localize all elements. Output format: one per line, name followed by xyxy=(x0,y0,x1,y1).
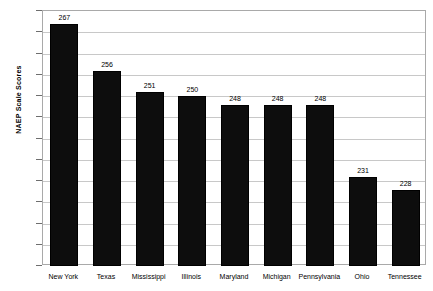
bar[interactable] xyxy=(349,177,377,266)
bar-value-label: 251 xyxy=(130,82,170,89)
plot-area: 267256251250248248248231228 xyxy=(42,10,426,265)
bar[interactable] xyxy=(221,105,249,267)
y-axis-tick-mark xyxy=(36,265,42,266)
x-axis-category-label: Tennessee xyxy=(375,273,433,280)
bar-value-label: 248 xyxy=(258,95,298,102)
bar-value-label: 228 xyxy=(386,180,426,187)
bar[interactable] xyxy=(306,105,334,267)
bar-value-label: 267 xyxy=(44,14,84,21)
bar-value-label: 256 xyxy=(87,61,127,68)
bar[interactable] xyxy=(264,105,292,267)
bar[interactable] xyxy=(136,92,164,266)
bar[interactable] xyxy=(178,96,206,266)
gridline xyxy=(43,32,425,33)
gridline xyxy=(43,54,425,55)
bar[interactable] xyxy=(392,190,420,267)
bar-value-label: 231 xyxy=(343,167,383,174)
bar-value-label: 248 xyxy=(300,95,340,102)
bar[interactable] xyxy=(93,71,121,267)
bar[interactable] xyxy=(50,24,78,266)
bar-value-label: 250 xyxy=(172,86,212,93)
y-axis-title: NAEP Scale Scores xyxy=(15,30,22,170)
bar-value-label: 248 xyxy=(215,95,255,102)
bar-chart: NAEP Scale Scores 2102152202252302352402… xyxy=(0,0,433,291)
